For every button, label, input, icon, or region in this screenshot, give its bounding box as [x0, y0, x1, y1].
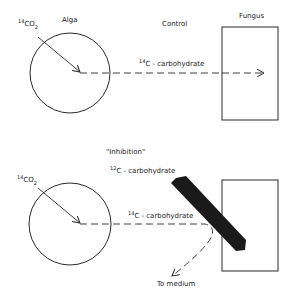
- inhibition-panel: [29, 176, 278, 276]
- co2-formula: CO: [23, 176, 33, 184]
- co2-subscript: 2: [35, 24, 38, 30]
- control-panel: [30, 27, 278, 120]
- fungus-label: Fungus: [239, 13, 264, 20]
- carbohydrate-label-inhibition: 14C - carbohydrate: [128, 213, 193, 220]
- blocker-label: 12C - carbohydrate: [110, 168, 175, 175]
- co2-label-control: 14CO2: [18, 21, 38, 28]
- to-medium-label: To medium: [157, 281, 195, 288]
- alga-cell-inhibition: [29, 183, 111, 265]
- co2-uptake-arrow-inhibition: [38, 188, 80, 223]
- co2-label-inhibition: 14CO2: [17, 177, 37, 184]
- carbohydrate-label-control: 14C - carbohydrate: [139, 61, 204, 68]
- carbohydrate-text: C - carbohydrate: [134, 212, 193, 220]
- control-title-text: Control: [162, 20, 187, 28]
- blocker-text: C - carbohydrate: [116, 167, 175, 175]
- diagram-canvas: [0, 0, 299, 300]
- inhibition-title-text: "Inhibition": [106, 148, 145, 156]
- fungus-label-text: Fungus: [239, 12, 264, 20]
- co2-formula: CO: [24, 20, 34, 28]
- carbohydrate-flow-inhibition: [80, 224, 213, 276]
- fungus-box-control: [222, 27, 278, 120]
- co2-uptake-arrow-control: [38, 37, 80, 72]
- inhibition-title: "Inhibition": [106, 149, 145, 156]
- to-medium-text: To medium: [157, 280, 195, 288]
- carbohydrate-text: C - carbohydrate: [145, 60, 204, 68]
- co2-subscript: 2: [34, 180, 37, 186]
- alga-label-text: Alga: [62, 16, 77, 24]
- alga-label-control: Alga: [62, 17, 77, 24]
- control-title: Control: [162, 21, 187, 28]
